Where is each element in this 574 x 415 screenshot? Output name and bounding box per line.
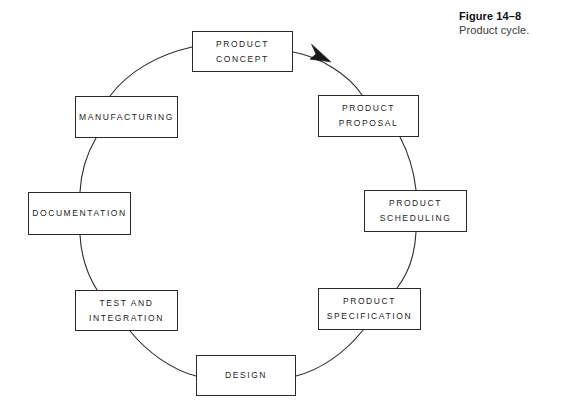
node-manufacturing-line1: MANUFACTURING xyxy=(79,110,174,125)
figure-title: Product cycle. xyxy=(459,23,571,37)
arc-test-to-documentation xyxy=(80,235,97,290)
arc-specification-to-design xyxy=(296,330,363,376)
arc-proposal-to-scheduling xyxy=(400,137,416,190)
arc-design-to-test xyxy=(130,331,196,376)
node-documentation[interactable]: DOCUMENTATION xyxy=(28,192,131,235)
node-product-concept[interactable]: PRODUCT CONCEPT xyxy=(192,31,293,72)
node-product-proposal[interactable]: PRODUCT PROPOSAL xyxy=(318,95,419,137)
arc-scheduling-to-specification xyxy=(397,232,416,288)
node-product-concept-line2: CONCEPT xyxy=(216,52,269,67)
node-product-specification-line1: PRODUCT xyxy=(343,294,396,309)
arc-manufacturing-to-concept xyxy=(110,47,192,96)
node-test-and-integration-line2: INTEGRATION xyxy=(89,311,164,326)
node-test-and-integration[interactable]: TEST AND INTEGRATION xyxy=(75,290,178,331)
arrowhead-icon xyxy=(309,44,333,63)
node-product-specification-line2: SPECIFICATION xyxy=(327,309,412,324)
figure-container: PRODUCT CONCEPT PRODUCT PROPOSAL PRODUCT… xyxy=(0,0,574,415)
node-design-line1: DESIGN xyxy=(225,368,267,383)
node-test-and-integration-line1: TEST AND xyxy=(99,296,153,311)
figure-caption: Figure 14–8 Product cycle. xyxy=(459,9,571,37)
node-product-scheduling-line2: SCHEDULING xyxy=(380,211,452,226)
node-product-proposal-line1: PRODUCT xyxy=(342,101,395,116)
node-documentation-line1: DOCUMENTATION xyxy=(32,206,127,221)
node-product-proposal-line2: PROPOSAL xyxy=(339,116,399,131)
node-manufacturing[interactable]: MANUFACTURING xyxy=(75,96,178,138)
node-product-concept-line1: PRODUCT xyxy=(216,37,269,52)
node-product-specification[interactable]: PRODUCT SPECIFICATION xyxy=(318,288,421,330)
node-design[interactable]: DESIGN xyxy=(196,355,296,396)
node-product-scheduling[interactable]: PRODUCT SCHEDULING xyxy=(364,190,467,232)
arc-documentation-to-manufacturing xyxy=(80,138,96,192)
figure-number: Figure 14–8 xyxy=(459,9,571,23)
node-product-scheduling-line1: PRODUCT xyxy=(389,196,442,211)
